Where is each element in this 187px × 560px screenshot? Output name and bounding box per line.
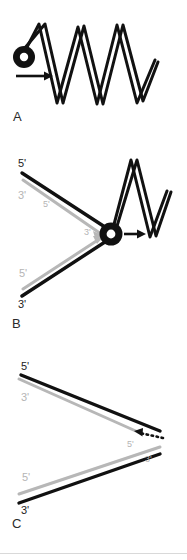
c-label-upper-new-5prime: 5' xyxy=(127,440,134,449)
c-label-lower-new-3prime: 3' xyxy=(145,455,152,464)
fork-upper-new-strand xyxy=(23,180,104,236)
direction-arrow-a xyxy=(16,72,53,81)
fork-upper-template-strand xyxy=(22,173,108,229)
c-lower-template-strand xyxy=(19,454,160,503)
c-label-lower-template-3prime: 3' xyxy=(21,505,29,516)
panel-b-fork xyxy=(22,160,171,296)
c-label-upper-new-3prime: 3' xyxy=(21,392,29,403)
c-lower-new-strand xyxy=(19,447,160,494)
fork-lower-template-strand xyxy=(22,240,108,296)
panel-c-strands xyxy=(19,375,163,503)
b-label-lower-template-3prime: 3' xyxy=(18,299,26,310)
b-label-lower-new-3prime: 3' xyxy=(84,228,91,237)
panel-label-c: C xyxy=(12,517,22,530)
helix-strand-1 xyxy=(24,24,155,104)
helix-strand-2 xyxy=(24,24,158,104)
c-upper-template-strand xyxy=(21,375,160,431)
helicase-ring-b-inner xyxy=(107,230,116,239)
direction-arrow-b xyxy=(124,230,146,239)
b-label-lower-new-5prime: 5' xyxy=(19,268,27,279)
c-label-upper-template-5prime: 5' xyxy=(21,361,29,372)
b-label-upper-new-5prime: 5' xyxy=(43,200,50,209)
c-label-lower-new-5prime: 5' xyxy=(22,472,30,483)
c-upper-new-strand xyxy=(19,379,138,432)
fork-duplex-strand-2 xyxy=(114,160,171,236)
bottom-divider xyxy=(0,553,187,554)
b-label-upper-template-5prime: 5' xyxy=(18,158,26,169)
b-label-upper-new-3prime: 3' xyxy=(18,190,26,201)
figure-root: A B C 5' 3' 5' 3' 5' 3' 5' 3' 5' 3' 5' 3… xyxy=(0,0,187,560)
helicase-ring-a-inner xyxy=(20,53,28,61)
c-dotted-synthesis-line xyxy=(140,433,163,438)
fork-lower-new-strand xyxy=(23,236,104,289)
panel-a-helix xyxy=(13,24,158,104)
panel-label-a: A xyxy=(13,110,22,123)
panel-label-b: B xyxy=(12,317,21,330)
